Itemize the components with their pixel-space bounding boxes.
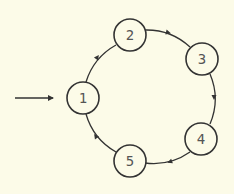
- node-label: 4: [197, 131, 205, 147]
- node-2: 2: [114, 19, 146, 51]
- edge-4-to-5: [145, 152, 190, 164]
- node-label: 2: [126, 27, 134, 43]
- node-label: 1: [79, 90, 87, 106]
- node-5: 5: [114, 145, 146, 177]
- node-label: 3: [198, 51, 206, 67]
- edge-1-to-2: [86, 45, 116, 82]
- node-4: 4: [185, 123, 217, 155]
- node-1: 1: [67, 82, 99, 114]
- edge-5-to-1: [86, 114, 116, 152]
- state-cycle-diagram: 1 2 3 4 5: [0, 0, 234, 194]
- node-label: 5: [126, 153, 134, 169]
- node-3: 3: [186, 43, 218, 75]
